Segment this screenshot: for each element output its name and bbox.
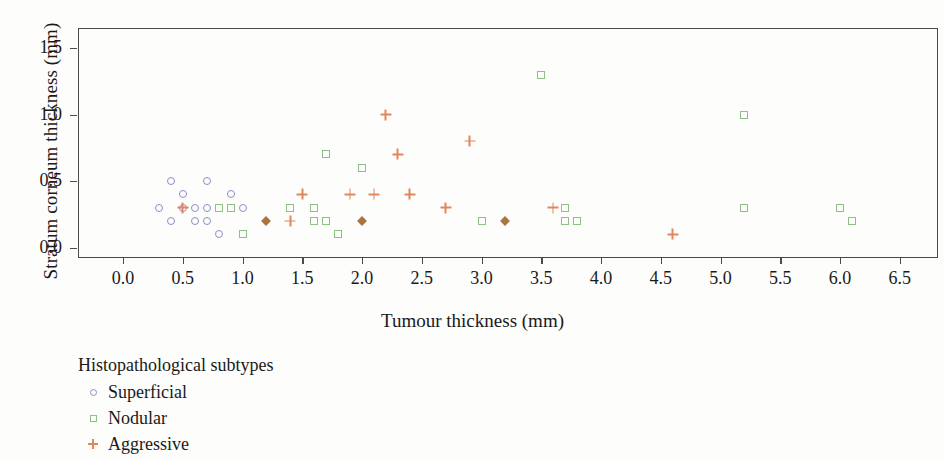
square-marker: [358, 164, 366, 172]
circle-marker: [203, 177, 211, 185]
square-marker: [322, 217, 330, 225]
diamond-marker: [501, 217, 510, 226]
legend-key: [78, 405, 108, 431]
legend-item-label: Superficial: [108, 382, 187, 403]
circle-marker: [203, 204, 211, 212]
plus-marker: [285, 216, 296, 227]
x-tick-label: 3.0: [452, 268, 512, 289]
y-tick-mark: [70, 115, 77, 116]
square-marker: [310, 217, 318, 225]
scatter-plot-figure: Stratum corneum thickness (mm) 0.00.51.0…: [0, 0, 945, 460]
y-tick-mark: [70, 248, 77, 249]
plus-marker: [297, 189, 308, 200]
x-tick-mark: [243, 258, 244, 264]
x-tick-label: 3.5: [511, 268, 571, 289]
x-tick-label: 2.5: [392, 268, 452, 289]
x-tick-mark: [780, 258, 781, 264]
legend-item-label: Aggressive: [108, 434, 189, 455]
x-tick-mark: [183, 258, 184, 264]
legend-key: [78, 379, 108, 405]
legend-item-aggressive[interactable]: Aggressive: [78, 431, 438, 457]
x-tick-mark: [362, 258, 363, 264]
plus-marker: [548, 202, 559, 213]
x-tick-label: 6.5: [870, 268, 930, 289]
circle-marker: [239, 204, 247, 212]
legend-item-superficial[interactable]: Superficial: [78, 379, 438, 405]
circle-marker: [191, 204, 199, 212]
x-tick-label: 1.5: [272, 268, 332, 289]
square-marker: [334, 230, 342, 238]
y-tick-label: 1.0: [0, 104, 62, 125]
square-marker: [286, 204, 294, 212]
plus-marker: [177, 202, 188, 213]
plus-marker: [392, 149, 403, 160]
x-tick-label: 4.0: [571, 268, 631, 289]
diamond-marker: [358, 217, 367, 226]
x-tick-label: 1.0: [213, 268, 273, 289]
square-marker: [848, 217, 856, 225]
circle-marker-icon: [90, 389, 97, 396]
plus-marker-icon: [88, 439, 98, 449]
x-tick-label: 0.0: [93, 268, 153, 289]
square-marker-icon: [90, 415, 97, 422]
circle-marker: [179, 190, 187, 198]
legend-item-label: Nodular: [108, 408, 167, 429]
y-tick-mark: [70, 181, 77, 182]
plus-marker: [345, 189, 356, 200]
plus-marker: [380, 109, 391, 120]
legend-title: Histopathological subtypes: [78, 355, 438, 376]
y-tick-label: 0.5: [0, 170, 62, 191]
x-tick-label: 5.0: [691, 268, 751, 289]
x-tick-mark: [422, 258, 423, 264]
square-marker: [561, 217, 569, 225]
y-tick-mark: [70, 48, 77, 49]
plot-area: 0.00.51.01.52.02.53.03.54.04.55.05.56.06…: [0, 0, 945, 300]
circle-marker: [203, 217, 211, 225]
x-tick-label: 0.5: [153, 268, 213, 289]
x-tick-mark: [601, 258, 602, 264]
x-tick-mark: [900, 258, 901, 264]
x-tick-label: 6.0: [810, 268, 870, 289]
circle-marker: [191, 217, 199, 225]
square-marker: [537, 71, 545, 79]
square-marker: [740, 204, 748, 212]
legend-item-nodular[interactable]: Nodular: [78, 405, 438, 431]
x-tick-label: 4.5: [631, 268, 691, 289]
plus-marker: [667, 229, 678, 240]
square-marker: [573, 217, 581, 225]
plus-marker: [368, 189, 379, 200]
square-marker: [322, 150, 330, 158]
circle-marker: [167, 177, 175, 185]
x-tick-label: 5.5: [750, 268, 810, 289]
plus-marker: [464, 136, 475, 147]
square-marker: [227, 204, 235, 212]
x-tick-mark: [840, 258, 841, 264]
plus-marker: [404, 189, 415, 200]
square-marker: [561, 204, 569, 212]
circle-marker: [155, 204, 163, 212]
square-marker: [239, 230, 247, 238]
x-tick-mark: [721, 258, 722, 264]
x-tick-mark: [123, 258, 124, 264]
square-marker: [740, 111, 748, 119]
x-tick-mark: [482, 258, 483, 264]
x-axis-title: Tumour thickness (mm): [0, 310, 945, 332]
circle-marker: [227, 190, 235, 198]
y-tick-label: 1.5: [0, 37, 62, 58]
square-marker: [836, 204, 844, 212]
diamond-marker: [262, 217, 271, 226]
y-tick-label: 0.0: [0, 237, 62, 258]
x-tick-mark: [661, 258, 662, 264]
square-marker: [478, 217, 486, 225]
plus-marker: [440, 202, 451, 213]
circle-marker: [167, 217, 175, 225]
circle-marker: [215, 230, 223, 238]
x-tick-mark: [302, 258, 303, 264]
x-tick-label: 2.0: [332, 268, 392, 289]
legend-key: [78, 431, 108, 457]
square-marker: [310, 204, 318, 212]
legend-items: SuperficialNodularAggressive: [78, 379, 438, 457]
legend: Histopathological subtypes SuperficialNo…: [78, 355, 438, 457]
x-tick-mark: [541, 258, 542, 264]
square-marker: [215, 204, 223, 212]
